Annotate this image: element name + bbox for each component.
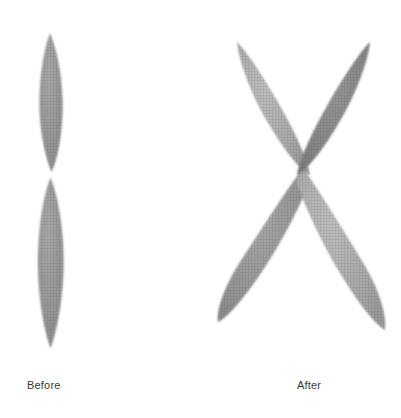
chromosome-illustration xyxy=(0,0,401,418)
chromosome-figure: Before After xyxy=(0,0,401,418)
caption-before: Before xyxy=(27,379,61,392)
caption-after: After xyxy=(297,379,321,392)
figure-background xyxy=(0,0,401,418)
